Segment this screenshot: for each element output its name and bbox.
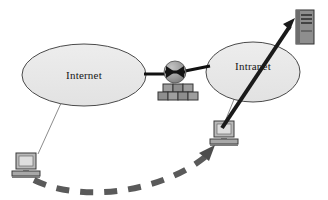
internet-client-link [38,101,62,154]
diagram-svg: Internet Intranet [0,0,328,200]
external-computer[interactable] [12,153,40,178]
zone-internet[interactable]: Internet [22,44,146,106]
firewall[interactable] [158,61,198,100]
server-tower-icon [296,10,314,44]
tower-server[interactable] [296,10,314,44]
internet-label: Internet [66,69,102,81]
network-diagram-canvas: Internet Intranet [0,0,328,200]
zone-intranet[interactable]: Intranet [206,42,300,102]
tunneled-attack-arrow [34,145,215,192]
brick-wall-icon [158,84,198,100]
intranet-ellipse [206,42,300,102]
desktop-computer-icon [12,153,40,178]
firewall-block-sphere-icon [164,61,186,83]
